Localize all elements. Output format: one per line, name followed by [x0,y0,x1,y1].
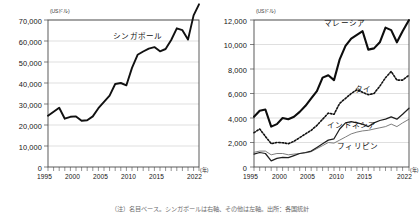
x-tick-label: 2022 [397,173,412,180]
series-label-thailand: タイ [355,83,372,94]
x-minor-ticks-left [48,167,199,171]
x-tick-label: 2015 [149,173,164,180]
y-major-ticks-left [44,20,48,167]
y-major-ticks-right [250,20,254,167]
plot-area-left [0,0,209,200]
x-axis-unit-label-right: (年) [410,166,418,173]
series-line-indonesia [254,108,409,161]
x-tick-label: 2000 [65,173,80,180]
x-tick-label: 2022 [187,173,202,180]
x-tick-label: 2010 [121,173,136,180]
chart-panel-singapore: (USドル) 70,000 60,000 50,000 40,000 30,00… [0,0,209,200]
plot-area-right [209,0,419,200]
x-tick-label: 2005 [93,173,108,180]
plot-frame-left [48,20,199,167]
x-tick-label: 2010 [329,173,344,180]
series-line-malaysia [254,20,409,127]
x-tick-label: 2005 [300,173,315,180]
series-label-indonesia: インドネシア [327,119,377,130]
x-minor-ticks-right [254,167,409,171]
x-tick-label: 1995 [37,173,52,180]
x-tick-label: 2015 [357,173,372,180]
series-label-philippines: フィリピン [337,140,379,151]
series-label-singapore: シンガポール [113,30,163,41]
series-label-malaysia: マレーシア [324,17,366,28]
figure-caption: （注）名目ベース。シンガポールは右軸、その他は左軸。出所：各国統計 [0,201,419,215]
x-axis-unit-label-left: (年) [200,166,208,173]
series-line-thailand [254,72,409,144]
x-tick-label: 2000 [272,173,287,180]
x-tick-label: 1995 [243,173,258,180]
series-line-singapore [48,4,199,121]
chart-panel-asean: (USドル) 12,000 10,000 8,000 6,000 4,000 2… [209,0,419,200]
two-panel-line-chart-figure: (USドル) 70,000 60,000 50,000 40,000 30,00… [0,0,419,215]
